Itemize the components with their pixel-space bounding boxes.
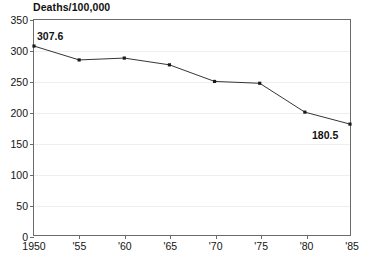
- x-axis-tick: [307, 235, 308, 239]
- x-axis-label: '60: [118, 241, 132, 252]
- data-point-marker: [32, 44, 35, 47]
- x-axis-tick: [216, 235, 217, 239]
- x-axis-label: 1950: [22, 241, 45, 252]
- data-series-line: [34, 20, 350, 235]
- x-axis-label: '75: [254, 241, 268, 252]
- y-axis-label: 50: [16, 201, 28, 212]
- data-point-marker: [213, 80, 216, 83]
- x-axis-label: '65: [163, 241, 177, 252]
- y-axis-label: 200: [10, 108, 28, 119]
- x-axis-tick: [261, 235, 262, 239]
- y-axis-label: 350: [10, 15, 28, 26]
- y-axis-label: 250: [10, 77, 28, 88]
- data-point-marker: [303, 111, 306, 114]
- x-axis-label: '55: [73, 241, 87, 252]
- y-axis-label: 100: [10, 170, 28, 181]
- data-point-value-label: 180.5: [312, 130, 338, 141]
- data-point-marker: [348, 123, 351, 126]
- x-axis-label: '85: [345, 241, 359, 252]
- y-axis-label: 300: [10, 46, 28, 57]
- plot-area: 050100150200250300350 1950'55'60'65'70'7…: [33, 19, 351, 236]
- line-chart: Deaths/100,000 050100150200250300350 195…: [0, 0, 374, 261]
- x-axis-tick: [79, 235, 80, 239]
- x-axis-tick: [170, 235, 171, 239]
- y-axis-tick: [30, 237, 34, 238]
- x-axis-label: '80: [300, 241, 314, 252]
- data-point-value-label: 307.6: [37, 31, 63, 42]
- x-axis-tick: [125, 235, 126, 239]
- data-point-marker: [78, 58, 81, 61]
- data-point-marker: [123, 57, 126, 60]
- chart-title: Deaths/100,000: [33, 1, 110, 13]
- data-point-marker: [168, 63, 171, 66]
- series-line: [34, 46, 350, 124]
- data-point-marker: [258, 82, 261, 85]
- x-axis-label: '70: [209, 241, 223, 252]
- y-axis-label: 150: [10, 139, 28, 150]
